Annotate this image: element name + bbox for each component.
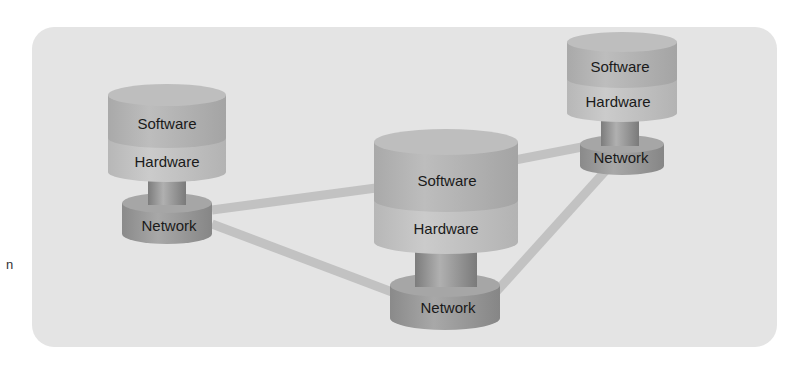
- node-right-network-label: Network: [593, 149, 649, 166]
- network-diagram: Software Hardware Network Software Hardw…: [0, 0, 795, 375]
- node-center-software-label: Software: [417, 172, 476, 189]
- node-center-network-label: Network: [420, 299, 476, 316]
- node-left: Software Hardware Network: [108, 84, 226, 244]
- node-center: Software Hardware Network: [374, 129, 518, 330]
- node-left-network-label: Network: [141, 217, 197, 234]
- node-right-hardware-label: Hardware: [585, 93, 650, 110]
- node-right: Software Hardware Network: [567, 32, 677, 175]
- node-center-hardware-label: Hardware: [413, 220, 478, 237]
- node-left-software-label: Software: [137, 115, 196, 132]
- node-right-software-label: Software: [590, 58, 649, 75]
- node-left-hardware-label: Hardware: [134, 153, 199, 170]
